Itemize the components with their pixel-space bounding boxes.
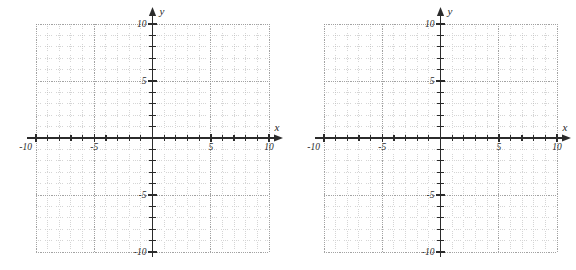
- graph-cell-left: -10-5510105-5-10xy: [0, 0, 288, 270]
- x-axis-arrow-icon: [274, 134, 283, 141]
- graph-cell-right: -10-5510105-5-10xy: [288, 0, 576, 270]
- worksheet-canvas: -10-5510105-5-10xy -10-5510105-5-10xy: [0, 0, 576, 270]
- x-tick-label: 10: [264, 142, 274, 152]
- y-tick-label: -10: [422, 247, 435, 257]
- x-tick-label: -10: [307, 142, 320, 152]
- y-tick-label: 10: [425, 19, 435, 29]
- y-tick-label: 10: [137, 19, 147, 29]
- y-axis-label: y: [159, 5, 165, 17]
- right-coordinate-plane[interactable]: -10-5510105-5-10xy: [288, 0, 576, 270]
- y-axis-label: y: [447, 5, 453, 17]
- x-axis-label: x: [274, 121, 280, 133]
- x-tick-label: 5: [208, 142, 213, 152]
- x-tick-label: -5: [90, 142, 98, 152]
- y-axis-arrow-icon: [437, 7, 444, 16]
- y-tick-label: -5: [139, 190, 147, 200]
- x-tick-label: 5: [496, 142, 501, 152]
- x-tick-label: 10: [552, 142, 562, 152]
- y-tick-label: -10: [134, 247, 147, 257]
- y-tick-label: 5: [142, 76, 147, 86]
- axes: [27, 7, 283, 257]
- x-tick-label: -10: [19, 142, 32, 152]
- left-coordinate-plane[interactable]: -10-5510105-5-10xy: [0, 0, 288, 270]
- x-tick-label: -5: [378, 142, 386, 152]
- axes: [315, 7, 571, 257]
- x-axis-arrow-icon: [562, 134, 571, 141]
- y-tick-label: -5: [427, 190, 435, 200]
- y-tick-label: 5: [430, 76, 435, 86]
- y-axis-arrow-icon: [149, 7, 156, 16]
- x-axis-label: x: [562, 121, 568, 133]
